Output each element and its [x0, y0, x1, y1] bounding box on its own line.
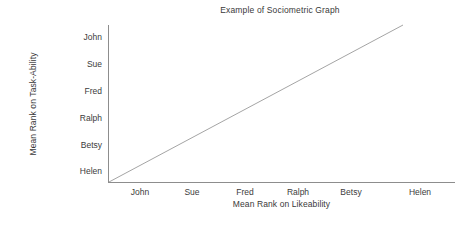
- y-tick-label-3: Fred: [85, 86, 102, 96]
- x-axis-title: Mean Rank on Likeability: [108, 199, 455, 209]
- y-tick-label-4: Ralph: [80, 113, 102, 123]
- x-tick-label-5: Betsy: [340, 187, 361, 197]
- x-tick-label-2: Sue: [184, 187, 199, 197]
- x-tick-label-6: Helen: [409, 187, 431, 197]
- y-tick-label-5: Betsy: [81, 140, 102, 150]
- x-axis-line: [108, 182, 455, 183]
- y-tick-label-6: Helen: [80, 166, 102, 176]
- y-axis-line: [108, 25, 109, 183]
- x-tick-label-4: Ralph: [287, 187, 309, 197]
- sociometric-chart: Example of Sociometric Graph John Sue Fr…: [0, 0, 476, 225]
- x-tick-label-1: John: [131, 187, 149, 197]
- x-tick-label-3: Fred: [236, 187, 253, 197]
- y-tick-label-2: Sue: [87, 59, 102, 69]
- y-tick-label-1: John: [84, 32, 102, 42]
- y-axis-title: Mean Rank on Task-Ability: [28, 53, 38, 156]
- trend-line: [109, 25, 403, 182]
